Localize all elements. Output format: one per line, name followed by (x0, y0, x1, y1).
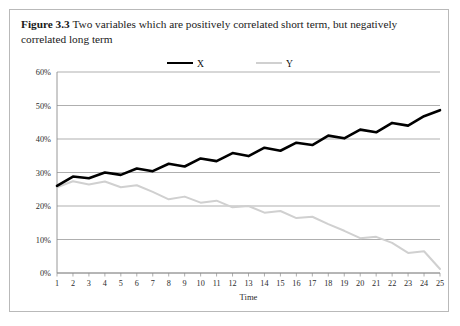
x-axis-tick-label: 10 (197, 279, 205, 288)
x-axis-tick-label: 2 (71, 279, 75, 288)
x-axis-tick-label: 11 (213, 279, 221, 288)
x-axis-tick-label: 6 (135, 279, 139, 288)
x-axis-tick-label: 8 (167, 279, 171, 288)
x-axis-tick-label: 1 (55, 279, 59, 288)
x-axis-tick-label: 12 (228, 279, 236, 288)
x-axis-tick-label: 13 (244, 279, 252, 288)
x-axis-title: Time (240, 292, 258, 302)
x-axis-tick-label: 19 (340, 279, 348, 288)
x-axis-tick-label: 5 (119, 279, 123, 288)
x-axis-tick-label: 7 (151, 279, 155, 288)
y-axis-tick-label: 30% (36, 169, 51, 178)
x-axis-tick-label: 22 (388, 279, 396, 288)
x-axis-tick-label: 20 (356, 279, 364, 288)
x-axis-tick-label: 25 (436, 279, 444, 288)
y-axis-tick-label: 20% (36, 202, 51, 211)
x-axis-tick-label: 21 (372, 279, 380, 288)
x-axis-tick-label: 4 (103, 279, 107, 288)
x-axis-tick-label: 24 (420, 279, 428, 288)
y-axis-tick-label: 60% (36, 68, 51, 77)
x-axis-tick-label: 16 (292, 279, 300, 288)
line-chart-svg: 0%10%20%30%40%50%60%12345678910111213141… (10, 10, 450, 313)
x-axis-tick-label: 14 (260, 279, 268, 288)
x-axis-tick-label: 23 (404, 279, 412, 288)
y-axis-tick-label: 0% (40, 269, 51, 278)
data-series-line-y (57, 181, 440, 269)
x-axis-tick-label: 17 (308, 279, 316, 288)
figure-frame: Figure 3.3 Two variables which are posit… (9, 9, 449, 312)
y-axis-tick-label: 50% (36, 102, 51, 111)
x-axis-tick-label: 15 (276, 279, 284, 288)
x-axis-tick-label: 9 (183, 279, 187, 288)
data-series-line-x (57, 110, 440, 186)
y-axis-tick-label: 10% (36, 236, 51, 245)
y-axis-tick-label: 40% (36, 135, 51, 144)
x-axis-tick-label: 18 (324, 279, 332, 288)
plot-area: 0%10%20%30%40%50%60%12345678910111213141… (10, 10, 450, 313)
x-axis-tick-label: 3 (87, 279, 91, 288)
